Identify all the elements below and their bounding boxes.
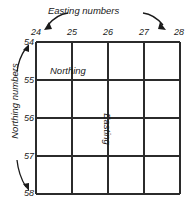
- easting-numbers-axis-title: Easting numbers: [48, 6, 119, 16]
- northing-tick-56: 56: [20, 113, 34, 123]
- easting-tick-28: 28: [171, 27, 187, 37]
- easting-tick-27: 27: [136, 27, 152, 37]
- arrow-curve-to-58: [17, 160, 26, 187]
- arrow-head-to-24: [44, 22, 52, 30]
- easting-tick-24: 24: [28, 27, 44, 37]
- northing-tick-55: 55: [20, 75, 34, 85]
- easting-tick-25: 25: [64, 27, 80, 37]
- northing-tick-57: 57: [20, 151, 34, 161]
- northing-inner-annotation: Northing: [50, 66, 86, 76]
- grid-reference-diagram: Easting numbers 24 25 26 27 28 Northing …: [0, 0, 189, 203]
- northing-numbers-axis-title: Northing numbers: [10, 59, 20, 143]
- easting-inner-annotation: Easting: [102, 107, 112, 151]
- northing-tick-58: 58: [20, 188, 34, 198]
- easting-tick-26: 26: [100, 27, 116, 37]
- northing-tick-54: 54: [20, 37, 34, 47]
